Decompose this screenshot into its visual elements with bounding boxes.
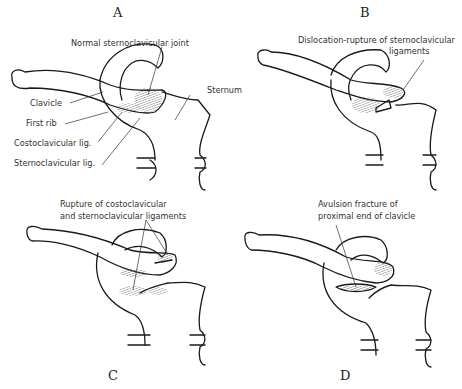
rib-stubs (361, 340, 431, 350)
label-sternum: Sternum (207, 85, 242, 95)
panel-d: D Avulsion fracture of proximal end of c… (245, 199, 431, 383)
label-costoclavicular: Costoclavicular lig. (14, 138, 91, 148)
panel-letter-c: C (108, 368, 118, 383)
clavicle-shape (245, 232, 394, 283)
label-avulsion-line1: Avulsion fracture of (318, 199, 399, 209)
label-rupture-line2: and sternoclavicular ligaments (60, 211, 186, 221)
label-clavicle: Clavicle (30, 98, 62, 108)
rib-stubs (137, 158, 206, 168)
panel-c: C Rupture of costoclavicular and sternoc… (27, 199, 205, 383)
label-first-rib: First rib (26, 118, 57, 128)
label-dislocation-line1: Dislocation-rupture of sternoclavicular (298, 35, 456, 45)
panel-letter-b: B (360, 5, 370, 20)
sternoclavicular-diagram: A Normal sternoclavicular joint Sternum … (0, 0, 462, 389)
rib-curve (323, 263, 376, 355)
sternum-shape (396, 103, 436, 190)
first-rib-shape (331, 50, 389, 100)
panel-letter-a: A (112, 5, 123, 20)
rib-stubs (366, 155, 436, 165)
sternum-shape (140, 282, 205, 365)
label-avulsion-line2: proximal end of clavicle (318, 211, 415, 221)
rib-curve (331, 80, 381, 160)
label-dislocation-line2: ligaments (389, 46, 429, 56)
panel-letter-d: D (340, 368, 350, 383)
sternum-shape (162, 92, 210, 190)
panel-a: A Normal sternoclavicular joint Sternum … (12, 5, 242, 190)
sternum-shape (369, 285, 431, 367)
clavicle-shape (258, 50, 405, 102)
rib-stubs (128, 335, 205, 345)
label-sternoclavicular: Sternoclavicular lig. (14, 158, 95, 168)
label-normal-joint: Normal sternoclavicular joint (71, 38, 190, 48)
label-rupture-line1: Rupture of costoclavicular (60, 199, 167, 209)
panel-b: B Dislocation-rupture of sternoclavicula… (258, 5, 456, 190)
rib-outline (150, 160, 156, 180)
